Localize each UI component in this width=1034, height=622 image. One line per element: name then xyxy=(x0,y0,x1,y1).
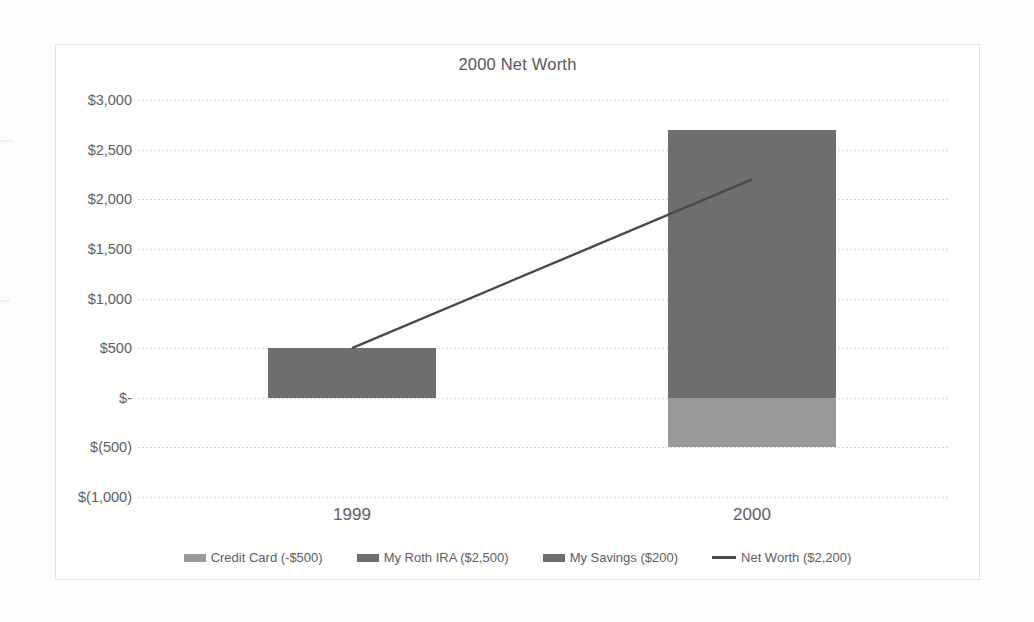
legend-label: My Roth IRA ($2,500) xyxy=(384,550,509,565)
net-worth-line[interactable] xyxy=(138,100,948,497)
gridline xyxy=(138,497,948,498)
legend-swatch-icon xyxy=(357,554,379,562)
legend-item-savings[interactable]: My Savings ($200) xyxy=(543,550,678,565)
y-axis-tick: $3,000 xyxy=(54,92,132,108)
y-axis-tick: $500 xyxy=(54,340,132,356)
legend-label: Net Worth ($2,200) xyxy=(741,550,851,565)
legend-item-net-worth[interactable]: Net Worth ($2,200) xyxy=(712,550,851,565)
y-axis-tick: $2,000 xyxy=(54,191,132,207)
legend-label: My Savings ($200) xyxy=(570,550,678,565)
legend-swatch-icon xyxy=(184,554,206,562)
chart-container[interactable]: 2000 Net Worth $3,000 $2,500 $2,000 $1,5… xyxy=(55,44,980,580)
scan-artifact xyxy=(0,300,10,302)
net-worth-line-segment xyxy=(352,179,752,348)
legend-item-roth-ira[interactable]: My Roth IRA ($2,500) xyxy=(357,550,509,565)
y-axis-tick: $1,500 xyxy=(54,241,132,257)
scan-artifact xyxy=(0,140,14,142)
legend-item-credit-card[interactable]: Credit Card (-$500) xyxy=(184,550,323,565)
chart-legend: Credit Card (-$500) My Roth IRA ($2,500)… xyxy=(56,550,979,565)
legend-swatch-icon xyxy=(543,554,565,562)
y-axis-tick: $(500) xyxy=(54,439,132,455)
chart-title: 2000 Net Worth xyxy=(56,55,979,74)
legend-line-icon xyxy=(712,556,736,559)
plot-area xyxy=(138,100,948,497)
x-axis-label-2000: 2000 xyxy=(733,505,771,525)
x-axis-label-1999: 1999 xyxy=(333,505,371,525)
y-axis-tick: $(1,000) xyxy=(54,489,132,505)
y-axis-tick: $- xyxy=(54,390,132,406)
y-axis-tick: $2,500 xyxy=(54,142,132,158)
y-axis-tick: $1,000 xyxy=(54,291,132,307)
y-axis: $3,000 $2,500 $2,000 $1,500 $1,000 $500 … xyxy=(56,100,132,497)
legend-label: Credit Card (-$500) xyxy=(211,550,323,565)
